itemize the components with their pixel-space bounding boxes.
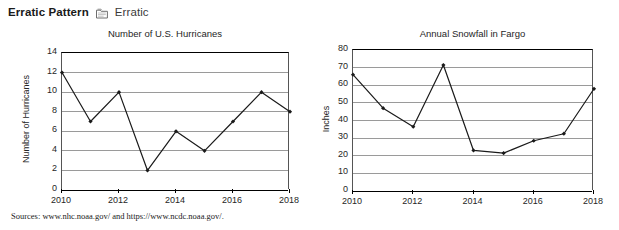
y-tick-label: 70 [324,61,348,71]
series-line [353,65,594,153]
series-layer: 2010: 662011: 472012: 36.52013: 71.52014… [353,50,594,191]
chart-snowfall: Annual Snowfall in FargoInches0102030405… [0,0,619,230]
figure-two-line-charts: Number of U.S. HurricanesNumber of Hurri… [0,0,619,230]
x-tick-label: 2018 [573,196,613,206]
data-point-marker: 2014: 23 [471,148,475,152]
x-tick-label: 2014 [453,196,493,206]
data-point-marker: 2015: 21.5 [502,151,506,155]
y-tick-label: 20 [324,149,348,159]
sources-note: Sources: www.nhc.noaa.gov/ and https://w… [11,211,224,221]
chart-title: Annual Snowfall in Fargo [330,28,615,39]
y-tick-label: 80 [324,43,348,53]
x-tick-label: 2010 [332,196,372,206]
data-point-marker: 2013: 71.5 [441,63,445,67]
x-tick-label: 2012 [392,196,432,206]
y-tick-label: 30 [324,131,348,141]
x-tick-label: 2016 [513,196,553,206]
y-tick-label: 40 [324,114,348,124]
y-tick-label: 50 [324,96,348,106]
plot-area: 2010: 662011: 472012: 36.52013: 71.52014… [352,49,593,190]
y-tick-label: 0 [324,184,348,194]
y-tick-label: 10 [324,166,348,176]
data-point-marker: 2016: 28.5 [532,139,536,143]
y-tick-label: 60 [324,78,348,88]
